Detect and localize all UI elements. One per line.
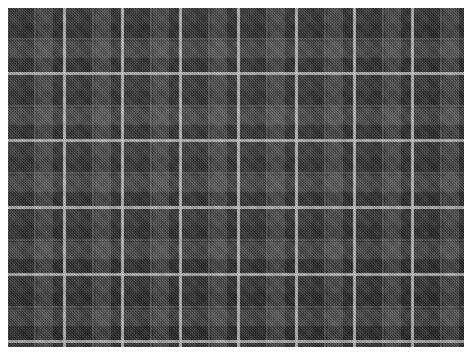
weft-white-accent-lines [8,8,464,347]
twill-weave-texture [8,8,464,347]
fabric-sheen-overlay [8,8,464,347]
tartan-fabric-area [8,8,464,347]
fabric-swatch-canvas [0,0,464,355]
weft-companion-accent-lines [8,8,464,347]
warp-colour-bands [8,8,464,347]
weft-colour-bands [8,8,464,347]
warp-white-accent-lines [8,8,464,347]
warp-companion-accent-lines [8,8,464,347]
thread-ribbing-texture [8,8,464,347]
